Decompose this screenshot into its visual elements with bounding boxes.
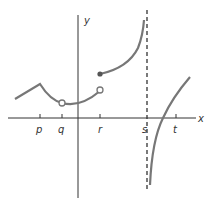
open-circle-q [59, 100, 65, 106]
curve-segment-left [15, 84, 62, 103]
x-axis-label: x [197, 113, 204, 124]
graph-svg: y x p q r s t [0, 0, 214, 198]
curve-segment-right [150, 77, 190, 185]
open-circle-r [97, 87, 103, 93]
tick-label-p: p [35, 124, 42, 135]
curve-segment-q-to-r [62, 91, 100, 104]
tick-label-r: r [98, 124, 103, 135]
function-graph: y x p q r s t [0, 0, 214, 198]
x-ticks [40, 114, 176, 118]
tick-label-t: t [173, 124, 178, 135]
tick-label-q: q [58, 124, 64, 135]
curve-segment-r-to-s [100, 20, 144, 74]
y-axis-label: y [83, 15, 91, 26]
filled-dot-r [97, 71, 102, 76]
